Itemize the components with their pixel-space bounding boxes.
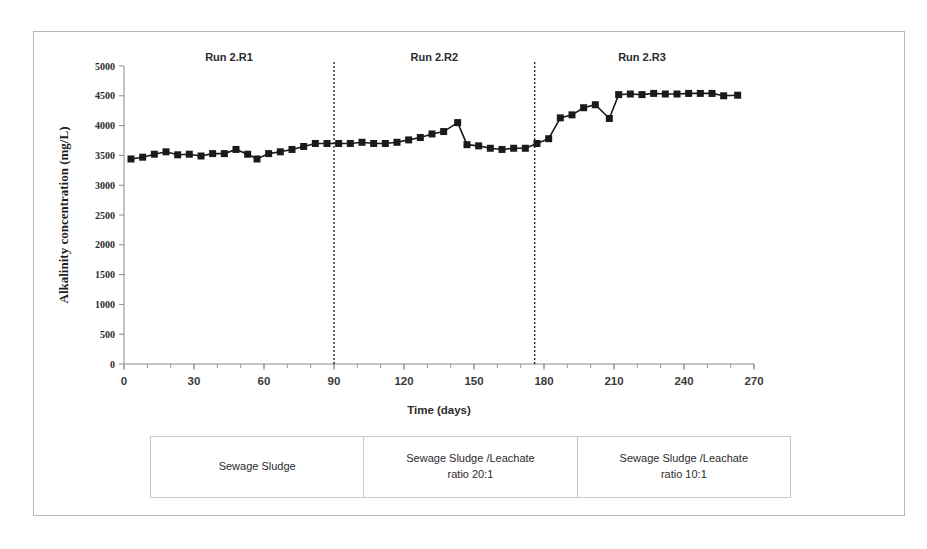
data-point-marker xyxy=(464,141,471,148)
x-tick-label: 270 xyxy=(744,375,763,387)
y-tick-label: 4000 xyxy=(95,120,115,131)
phase-label: Run 2.R2 xyxy=(410,51,458,63)
data-point-marker xyxy=(440,128,447,135)
data-point-marker xyxy=(163,148,170,155)
x-tick-label: 30 xyxy=(188,375,201,387)
data-point-marker xyxy=(209,150,216,157)
y-axis-title: Alkalinity concentration (mg/L) xyxy=(56,127,71,304)
caption-cell-line2: ratio 10:1 xyxy=(582,467,786,483)
x-tick-label: 0 xyxy=(121,375,127,387)
x-tick-label: 240 xyxy=(674,375,693,387)
y-tick-label: 3500 xyxy=(95,150,115,161)
data-point-marker xyxy=(580,104,587,111)
data-point-marker xyxy=(289,146,296,153)
y-tick-label: 2500 xyxy=(95,210,115,221)
data-point-marker xyxy=(606,115,613,122)
data-point-marker xyxy=(312,140,319,147)
data-point-marker xyxy=(174,151,181,158)
data-point-marker xyxy=(198,153,205,160)
data-point-marker xyxy=(394,139,401,146)
data-point-marker xyxy=(335,140,342,147)
x-tick-label: 150 xyxy=(464,375,483,387)
tick-labels-group: 0500100015002000250030003500400045005000… xyxy=(95,61,764,388)
caption-cell-run2: Sewage Sludge /Leachate ratio 20:1 xyxy=(364,437,577,498)
data-point-marker xyxy=(734,92,741,99)
data-point-marker xyxy=(382,140,389,147)
data-point-marker xyxy=(347,140,354,147)
data-point-marker xyxy=(151,151,158,158)
y-tick-label: 1000 xyxy=(95,299,115,310)
data-point-marker xyxy=(359,139,366,146)
data-point-marker xyxy=(697,90,704,97)
data-point-marker xyxy=(499,146,506,153)
data-point-marker xyxy=(534,140,541,147)
data-point-marker xyxy=(233,146,240,153)
data-point-marker xyxy=(254,155,261,162)
y-tick-label: 500 xyxy=(100,329,115,340)
phase-label: Run 2.R1 xyxy=(205,51,253,63)
caption-cell-line1: Sewage Sludge /Leachate xyxy=(368,451,572,467)
data-point-marker xyxy=(674,91,681,98)
data-point-marker xyxy=(417,134,424,141)
caption-cell-line1: Sewage Sludge xyxy=(155,459,359,475)
data-point-marker xyxy=(405,136,412,143)
x-tick-label: 180 xyxy=(534,375,553,387)
data-point-marker xyxy=(186,151,193,158)
x-tick-label: 60 xyxy=(258,375,271,387)
phase-dividers-group xyxy=(334,62,535,364)
data-point-marker xyxy=(429,130,436,137)
data-point-marker xyxy=(128,155,135,162)
data-point-marker xyxy=(454,119,461,126)
data-point-marker xyxy=(277,148,284,155)
y-tick-label: 4500 xyxy=(95,90,115,101)
data-point-marker xyxy=(265,150,272,157)
data-point-marker xyxy=(244,151,251,158)
x-tick-label: 120 xyxy=(394,375,413,387)
y-tick-label: 0 xyxy=(110,359,115,370)
caption-cell-run3: Sewage Sludge /Leachate ratio 10:1 xyxy=(577,437,790,498)
data-point-marker xyxy=(522,145,529,152)
data-point-marker xyxy=(592,101,599,108)
data-point-marker xyxy=(475,142,482,149)
data-point-marker xyxy=(324,140,331,147)
data-point-marker xyxy=(569,111,576,118)
phase-caption-table: Sewage Sludge Sewage Sludge /Leachate ra… xyxy=(150,436,791,498)
y-tick-label: 2000 xyxy=(95,239,115,250)
caption-cell-line2: ratio 20:1 xyxy=(368,467,572,483)
data-point-marker xyxy=(627,91,634,98)
data-series-group xyxy=(128,90,742,163)
data-point-marker xyxy=(370,140,377,147)
data-point-marker xyxy=(557,114,564,121)
data-point-marker xyxy=(615,91,622,98)
figure-frame: 0500100015002000250030003500400045005000… xyxy=(33,31,905,516)
phase-label: Run 2.R3 xyxy=(618,51,666,63)
x-tick-label: 210 xyxy=(604,375,623,387)
data-point-marker xyxy=(545,135,552,142)
data-point-marker xyxy=(685,90,692,97)
series-line xyxy=(131,93,738,159)
data-point-marker xyxy=(650,90,657,97)
data-point-marker xyxy=(487,145,494,152)
data-point-marker xyxy=(510,145,517,152)
data-point-marker xyxy=(709,90,716,97)
phase-labels-group: Run 2.R1Run 2.R2Run 2.R3 xyxy=(205,51,666,63)
data-point-marker xyxy=(662,91,669,98)
caption-cell-run1: Sewage Sludge xyxy=(151,437,364,498)
data-point-marker xyxy=(300,143,307,150)
data-point-marker xyxy=(639,91,646,98)
data-point-marker xyxy=(139,154,146,161)
x-axis-title: Time (days) xyxy=(407,404,471,416)
axes-group xyxy=(119,66,754,370)
table-row: Sewage Sludge Sewage Sludge /Leachate ra… xyxy=(151,437,791,498)
caption-cell-line1: Sewage Sludge /Leachate xyxy=(582,451,786,467)
y-tick-label: 3000 xyxy=(95,180,115,191)
x-tick-label: 90 xyxy=(328,375,341,387)
y-tick-label: 1500 xyxy=(95,269,115,280)
data-point-marker xyxy=(720,92,727,99)
y-tick-label: 5000 xyxy=(95,61,115,72)
data-point-marker xyxy=(221,150,228,157)
axis-titles-group: Time (days)Alkalinity concentration (mg/… xyxy=(56,127,471,416)
